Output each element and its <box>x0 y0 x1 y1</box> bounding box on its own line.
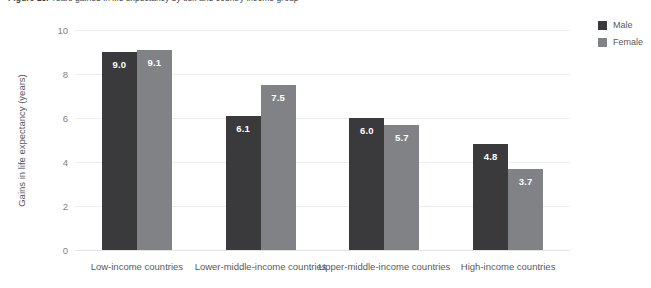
y-axis-tick-label: 4 <box>63 157 68 168</box>
legend-item-female[interactable]: Female <box>598 37 643 47</box>
y-axis-tick-label: 2 <box>63 201 68 212</box>
y-axis-tick-label: 0 <box>63 245 68 256</box>
legend-label: Female <box>613 37 643 47</box>
bar-value-label: 6.1 <box>226 123 261 134</box>
bar-value-label: 9.1 <box>137 57 172 68</box>
bar-group: 4.83.7High-income countries <box>473 30 543 250</box>
bar-group: 9.09.1Low-income countries <box>102 30 172 250</box>
x-axis-category-label: High-income countries <box>461 261 556 272</box>
legend-swatch-icon <box>598 21 607 30</box>
x-axis-category-label: Upper-middle-income countries <box>318 261 450 272</box>
bar-value-label: 5.7 <box>384 132 419 143</box>
bar-female[interactable]: 5.7 <box>384 125 419 250</box>
figure-title-text: Years gained in life expectancy by sex a… <box>49 0 299 3</box>
y-axis-tick-label: 10 <box>57 25 68 36</box>
bar-value-label: 9.0 <box>102 59 137 70</box>
x-axis-category-label: Lower-middle-income countries <box>195 261 327 272</box>
figure-title: Figure 13. Years gained in life expectan… <box>8 0 299 3</box>
bar-female[interactable]: 9.1 <box>137 50 172 250</box>
x-axis-category-label: Low-income countries <box>91 261 183 272</box>
gridline <box>75 250 570 251</box>
bar-value-label: 4.8 <box>473 151 508 162</box>
y-axis-title: Gains in life expectancy (years) <box>14 30 28 250</box>
legend-swatch-icon <box>598 38 607 47</box>
bar-female[interactable]: 7.5 <box>261 85 296 250</box>
bar-value-label: 3.7 <box>508 176 543 187</box>
bar-male[interactable]: 4.8 <box>473 144 508 250</box>
bar-group: 6.05.7Upper-middle-income countries <box>349 30 419 250</box>
bar-value-label: 7.5 <box>261 92 296 103</box>
figure-title-number: Figure 13. <box>8 0 49 3</box>
y-axis-tick-label: 6 <box>63 113 68 124</box>
bar-male[interactable]: 6.0 <box>349 118 384 250</box>
bar-female[interactable]: 3.7 <box>508 169 543 250</box>
bar-male[interactable]: 6.1 <box>226 116 261 250</box>
chart-plot-area: 0246810 9.09.1Low-income countries6.17.5… <box>75 30 570 250</box>
y-axis-title-label: Gains in life expectancy (years) <box>16 74 27 207</box>
legend-label: Male <box>613 20 633 30</box>
bar-value-label: 6.0 <box>349 125 384 136</box>
y-axis-tick-label: 8 <box>63 69 68 80</box>
legend-item-male[interactable]: Male <box>598 20 643 30</box>
bar-male[interactable]: 9.0 <box>102 52 137 250</box>
chart-legend: MaleFemale <box>598 20 643 54</box>
bar-group: 6.17.5Lower-middle-income countries <box>226 30 296 250</box>
